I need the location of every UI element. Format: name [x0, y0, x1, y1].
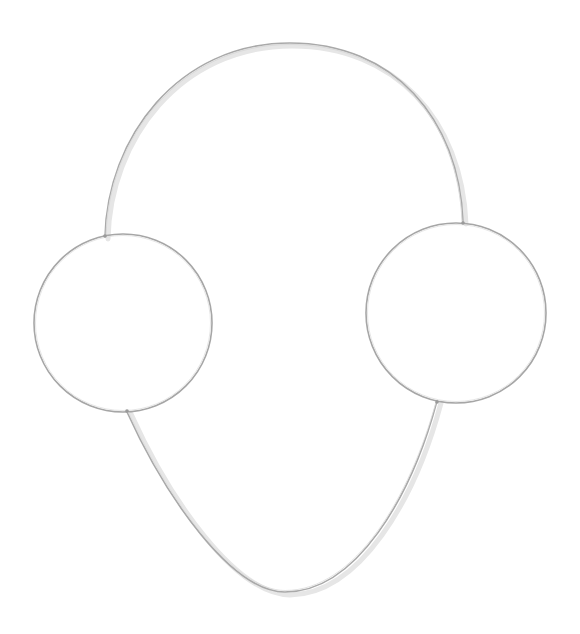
necklace-illustration [0, 0, 580, 634]
product-photo: Silver wire necklace with two circular h… [0, 0, 580, 634]
background [0, 0, 580, 634]
